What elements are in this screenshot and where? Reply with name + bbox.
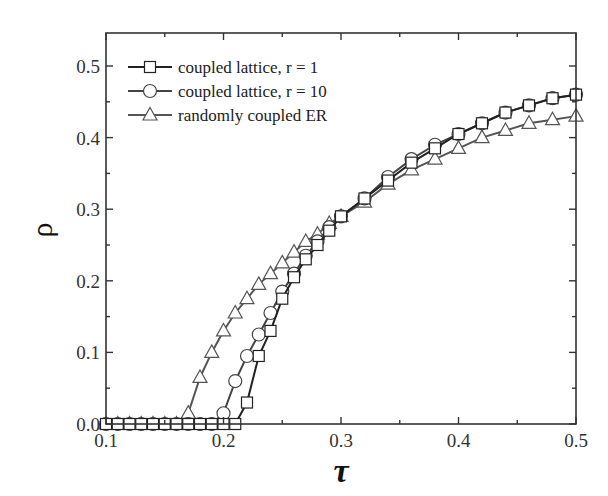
square-marker-icon [242, 397, 253, 408]
square-marker-icon [312, 240, 323, 251]
y-tick-label: 0.2 [76, 271, 100, 292]
series-line [106, 95, 576, 424]
square-marker-icon [406, 157, 417, 168]
square-marker-icon [547, 93, 558, 104]
legend-label: coupled lattice, r = 1 [178, 58, 318, 77]
circle-marker-icon [144, 85, 157, 98]
legend-item: randomly coupled ER [128, 106, 328, 125]
x-tick-label: 0.5 [564, 430, 588, 451]
square-marker-icon [277, 293, 288, 304]
triangle-marker-icon [181, 406, 195, 419]
y-tick-label: 0.4 [76, 128, 100, 149]
y-tick-label: 0.1 [76, 342, 100, 363]
series-square [101, 89, 582, 429]
square-marker-icon [500, 107, 511, 118]
x-axis-title: τ [333, 452, 349, 489]
legend-item: coupled lattice, r = 10 [128, 82, 327, 101]
legend: coupled lattice, r = 1coupled lattice, r… [128, 58, 328, 125]
square-marker-icon [145, 62, 156, 73]
square-marker-icon [324, 225, 335, 236]
y-axis-title: ρ [25, 223, 58, 238]
x-tick-label: 0.4 [447, 430, 471, 451]
square-marker-icon [383, 175, 394, 186]
plot-series [99, 88, 583, 430]
square-marker-icon [300, 254, 311, 265]
legend-item: coupled lattice, r = 1 [128, 58, 318, 77]
triangle-marker-icon [193, 370, 207, 383]
triangle-marker-icon [205, 345, 219, 358]
series-circle [100, 88, 583, 430]
square-marker-icon [430, 143, 441, 154]
square-marker-icon [453, 129, 464, 140]
x-axis-tick-labels: 0.10.20.30.40.5 [94, 430, 588, 451]
series-triangle [99, 109, 583, 429]
square-marker-icon [359, 193, 370, 204]
square-marker-icon [253, 350, 264, 361]
triangle-marker-icon [143, 108, 157, 121]
legend-label: randomly coupled ER [178, 106, 328, 125]
square-marker-icon [265, 325, 276, 336]
x-tick-label: 0.3 [329, 430, 353, 451]
series-line [106, 95, 576, 424]
chart-canvas: 0.10.20.30.40.5 0.00.10.20.30.40.5 τ ρ c… [0, 0, 608, 496]
y-tick-label: 0.0 [76, 414, 100, 435]
y-tick-label: 0.3 [76, 199, 100, 220]
square-marker-icon [336, 211, 347, 222]
series-line [106, 116, 576, 424]
axis-ticks [106, 33, 576, 424]
circle-marker-icon [229, 375, 242, 388]
y-tick-label: 0.5 [76, 56, 100, 77]
square-marker-icon [477, 118, 488, 129]
triangle-marker-icon [217, 323, 231, 336]
square-marker-icon [524, 100, 535, 111]
circle-marker-icon [241, 349, 254, 362]
square-marker-icon [289, 272, 300, 283]
x-tick-label: 0.2 [212, 430, 236, 451]
plot-frame [106, 33, 576, 424]
legend-label: coupled lattice, r = 10 [178, 82, 327, 101]
circle-marker-icon [252, 328, 265, 341]
y-axis-tick-labels: 0.00.10.20.30.40.5 [76, 56, 100, 435]
